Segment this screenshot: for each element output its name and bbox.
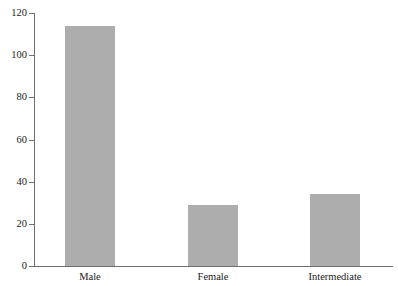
y-tick-label-60: 60 [17, 134, 28, 145]
y-tick-label-80: 80 [17, 92, 28, 103]
bar-chart: 0 20 40 60 80 100 [0, 0, 398, 286]
x-tick-label-male: Male [79, 272, 101, 283]
y-axis-line [34, 13, 35, 266]
y-tick-label-100: 100 [11, 50, 27, 61]
bar-female [188, 205, 238, 266]
y-tick-label-0: 0 [22, 261, 27, 272]
y-tick-label-20: 20 [17, 219, 28, 230]
bar-male [65, 26, 115, 266]
x-axis-line [34, 266, 393, 267]
y-tick-label-120: 120 [11, 8, 27, 19]
x-tick-label-intermediate: Intermediate [308, 272, 361, 283]
plot-area: 0 20 40 60 80 100 [34, 13, 393, 266]
y-tick-label-40: 40 [17, 176, 28, 187]
bar-intermediate [310, 194, 360, 266]
x-tick-label-female: Female [198, 272, 229, 283]
